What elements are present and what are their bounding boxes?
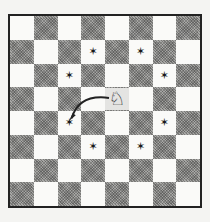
dark-square <box>34 64 58 88</box>
dark-square <box>81 64 105 88</box>
dark-square <box>176 16 200 40</box>
dark-square <box>105 135 129 159</box>
dark-square <box>10 40 34 64</box>
light-square <box>176 182 200 206</box>
dark-square <box>58 87 82 111</box>
square-hatching <box>36 113 56 133</box>
dark-square <box>176 64 200 88</box>
light-square <box>81 87 105 111</box>
light-square <box>105 16 129 40</box>
star-marker-icon: ✶ <box>153 117 177 128</box>
star-marker-icon: ✶ <box>58 117 82 128</box>
square-hatching <box>155 42 175 62</box>
dark-square <box>10 182 34 206</box>
dark-square <box>176 111 200 135</box>
light-square <box>10 64 34 88</box>
light-square <box>105 111 129 135</box>
light-square <box>34 87 58 111</box>
dark-square <box>81 111 105 135</box>
light-square <box>176 40 200 64</box>
square-hatching <box>60 42 80 62</box>
square-hatching <box>36 66 56 86</box>
square-hatching <box>131 161 151 181</box>
square-hatching <box>155 137 175 157</box>
light-square <box>176 87 200 111</box>
square-hatching <box>178 66 198 86</box>
light-square <box>176 135 200 159</box>
square-hatching <box>36 161 56 181</box>
square-hatching <box>155 89 175 109</box>
dark-square <box>153 135 177 159</box>
dark-square <box>129 159 153 183</box>
dark-square <box>81 159 105 183</box>
dark-square <box>129 64 153 88</box>
square-hatching <box>60 184 80 204</box>
light-square <box>10 111 34 135</box>
dark-square <box>153 87 177 111</box>
square-hatching <box>60 89 80 109</box>
dark-square <box>34 111 58 135</box>
dark-square <box>129 16 153 40</box>
dark-square <box>105 182 129 206</box>
star-marker-icon: ✶ <box>81 141 105 152</box>
square-hatching <box>131 113 151 133</box>
light-square <box>10 159 34 183</box>
star-marker-icon: ✶ <box>58 70 82 81</box>
dark-square <box>153 40 177 64</box>
dark-square <box>153 182 177 206</box>
star-marker-icon: ✶ <box>153 70 177 81</box>
light-square <box>34 135 58 159</box>
square-hatching <box>83 18 103 38</box>
light-square <box>34 40 58 64</box>
square-hatching <box>155 184 175 204</box>
square-hatching <box>107 42 127 62</box>
light-square <box>153 16 177 40</box>
square-hatching <box>107 137 127 157</box>
light-square <box>81 182 105 206</box>
chess-board: ✶✶✶✶✶✶✶✶♘ <box>8 14 202 208</box>
square-hatching <box>83 66 103 86</box>
square-hatching <box>12 184 32 204</box>
square-hatching <box>178 113 198 133</box>
dark-square <box>58 135 82 159</box>
dark-square <box>58 182 82 206</box>
dark-square <box>81 16 105 40</box>
square-hatching <box>12 89 32 109</box>
square-hatching <box>178 161 198 181</box>
light-square <box>129 87 153 111</box>
square-hatching <box>131 18 151 38</box>
light-square <box>58 16 82 40</box>
light-square <box>10 16 34 40</box>
light-square <box>105 64 129 88</box>
dark-square <box>176 159 200 183</box>
light-square <box>153 159 177 183</box>
square-hatching <box>12 42 32 62</box>
square-hatching <box>83 161 103 181</box>
square-hatching <box>83 113 103 133</box>
square-hatching <box>60 137 80 157</box>
light-square <box>105 159 129 183</box>
light-square <box>58 159 82 183</box>
square-hatching <box>178 18 198 38</box>
square-hatching <box>107 184 127 204</box>
square-hatching <box>12 137 32 157</box>
light-square <box>34 182 58 206</box>
light-square <box>129 182 153 206</box>
dark-square <box>10 135 34 159</box>
dark-square <box>58 40 82 64</box>
star-marker-icon: ✶ <box>81 46 105 57</box>
dark-square <box>34 16 58 40</box>
dark-square <box>10 87 34 111</box>
square-hatching <box>36 18 56 38</box>
dark-square <box>105 40 129 64</box>
dark-square <box>34 159 58 183</box>
square-hatching <box>131 66 151 86</box>
dark-square <box>129 111 153 135</box>
star-marker-icon: ✶ <box>129 46 153 57</box>
knight-piece-icon: ♘ <box>105 88 129 110</box>
star-marker-icon: ✶ <box>129 141 153 152</box>
